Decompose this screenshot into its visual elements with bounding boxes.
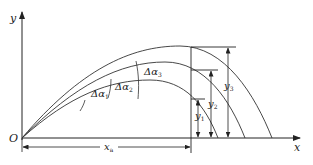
delta-alpha-3-label: Δα3 xyxy=(143,66,162,78)
xa-label: xa xyxy=(104,141,114,153)
y-axis-label: y xyxy=(9,12,17,25)
delta-alpha-2-label: Δα2 xyxy=(114,81,133,93)
trajectory-curves xyxy=(22,46,272,138)
origin-label: O xyxy=(9,132,18,145)
trajectory-3 xyxy=(22,46,272,138)
y3-label: y3 xyxy=(223,80,234,92)
y2-label: y2 xyxy=(207,98,218,110)
delta-alpha-1-label: Δα1 xyxy=(90,88,109,100)
x-axis-label: x xyxy=(294,141,301,154)
y1-label: y1 xyxy=(194,110,204,122)
trajectory-diagram: y O x xa Δα1 Δα2 Δα3 y1 y2 y3 xyxy=(0,0,313,165)
